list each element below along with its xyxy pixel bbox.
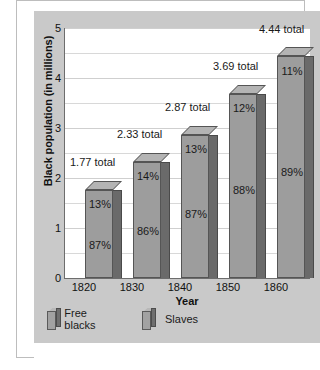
chart-title — [34, 0, 319, 6]
y-tick-1: 1 — [47, 222, 61, 234]
total-label-1840: 2.87 total — [165, 101, 210, 113]
plot-area: 13% 87% 1.77 total 14% 86% 2.33 total 13… — [64, 28, 310, 279]
x-tick-1840: 1840 — [157, 281, 203, 293]
bar-side-1840 — [209, 135, 218, 279]
x-tick-1850: 1850 — [205, 281, 251, 293]
pct-label-1850-slave: 88% — [229, 184, 259, 196]
x-tick-1860: 1860 — [253, 281, 299, 293]
pct-label-1860-free: 11% — [277, 65, 307, 77]
pct-label-1820-free: 13% — [85, 198, 115, 210]
x-tick-1830: 1830 — [109, 281, 155, 293]
bar-top-1830 — [133, 153, 170, 162]
bar-group-1860[interactable]: 11% 89% — [277, 28, 317, 278]
legend-label-slaves: Slaves — [165, 313, 198, 325]
bar-group-1820[interactable]: 13% 87% — [85, 28, 125, 278]
bar-swatch-icon — [47, 308, 57, 330]
bar-front-1840 — [181, 135, 209, 279]
pct-label-1840-slave: 87% — [181, 208, 211, 220]
legend-item-free-blacks[interactable]: Free blacks — [47, 307, 101, 331]
bar-top-1850 — [229, 85, 266, 94]
pct-label-1820-slave: 87% — [85, 239, 115, 251]
bar-top-1860 — [277, 47, 314, 56]
figure-frame: 13% 87% 1.77 total 14% 86% 2.33 total 13… — [16, 0, 305, 358]
x-tick-1820: 1820 — [61, 281, 107, 293]
y-axis-title: Black population (in millions) — [42, 16, 54, 206]
pct-label-1830-slave: 86% — [133, 225, 163, 237]
legend-label-free-blacks: Free blacks — [64, 307, 101, 331]
x-axis-title: Year — [64, 295, 310, 307]
bar-group-1830[interactable]: 14% 86% — [133, 28, 173, 278]
y-tick-0: 0 — [47, 272, 61, 284]
pct-label-1840-free: 13% — [181, 143, 211, 155]
bar-top-1840 — [181, 126, 218, 135]
total-label-1830: 2.33 total — [117, 128, 162, 140]
bar-swatch-icon — [142, 308, 158, 330]
total-label-1820: 1.77 total — [70, 156, 115, 168]
total-label-1850: 3.69 total — [213, 60, 258, 72]
total-label-1860: 4.44 total — [259, 23, 304, 35]
pct-label-1860-slave: 89% — [277, 166, 307, 178]
legend-item-slaves[interactable]: Slaves — [142, 307, 198, 331]
figure-bottom-strip — [34, 343, 319, 358]
pct-label-1850-free: 12% — [229, 102, 259, 114]
pct-label-1830-free: 14% — [133, 170, 163, 182]
bar-top-1820 — [85, 181, 122, 190]
